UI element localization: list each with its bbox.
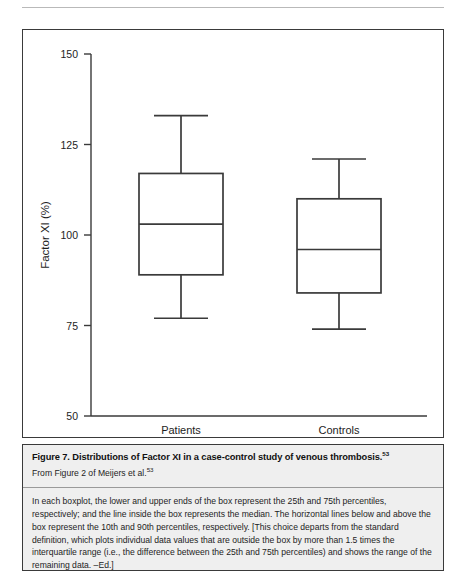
y-axis-ticks (84, 54, 91, 416)
y-tick-label-125: 125 (60, 139, 78, 151)
y-tick-label-150: 150 (60, 48, 78, 60)
caption-title-text: Figure 7. Distributions of Factor XI in … (32, 452, 382, 462)
controls-box (297, 199, 381, 293)
x-label-patients: Patients (161, 424, 201, 436)
caption-source-text: From Figure 2 of Meijers et al. (32, 468, 147, 478)
caption-source-reference: 53 (147, 466, 154, 473)
boxplot-patients (139, 116, 223, 319)
figure-caption-block: Figure 7. Distributions of Factor XI in … (22, 444, 444, 571)
x-axis-category-labels: Patients Controls (161, 424, 360, 436)
x-label-controls: Controls (319, 424, 360, 436)
y-axis-title: Factor XI (%) (39, 201, 51, 269)
caption-title: Figure 7. Distributions of Factor XI in … (32, 452, 434, 464)
chart-frame: 150 125 100 75 50 Factor XI (%) (22, 29, 444, 438)
y-tick-label-50: 50 (66, 410, 78, 422)
y-axis-tick-labels: 150 125 100 75 50 (60, 48, 78, 422)
caption-title-reference: 53 (382, 450, 389, 457)
caption-header: Figure 7. Distributions of Factor XI in … (23, 445, 443, 483)
boxplot-chart: 150 125 100 75 50 Factor XI (%) (23, 30, 443, 437)
caption-source: From Figure 2 of Meijers et al.53 (32, 468, 434, 479)
y-tick-label-100: 100 (60, 229, 78, 241)
page-top-rule (22, 7, 444, 8)
y-tick-label-75: 75 (66, 320, 78, 332)
caption-body-text: In each boxplot, the lower and upper end… (23, 488, 443, 571)
boxplot-controls (297, 159, 381, 329)
figure-page: 150 125 100 75 50 Factor XI (%) (0, 0, 466, 588)
